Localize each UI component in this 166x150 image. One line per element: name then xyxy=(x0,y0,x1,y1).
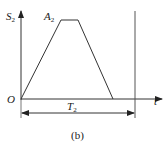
figure-caption: (b) xyxy=(71,129,84,142)
peak-label: A2 xyxy=(43,10,55,24)
trapezoid-diagram: S2 A2 O t T2 (b) xyxy=(0,0,166,150)
trapezoid-curve xyxy=(21,20,113,99)
period-label: T2 xyxy=(67,100,77,114)
y-axis-label: S2 xyxy=(6,10,16,24)
origin-label: O xyxy=(7,93,15,105)
x-axis-label: t xyxy=(154,95,158,107)
